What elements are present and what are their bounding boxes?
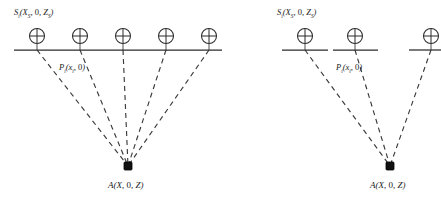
source-label-right: Si(XS, 0, ZS): [277, 7, 316, 19]
surface-point-label-right: Pi(xi, 0): [336, 62, 362, 74]
target-point-label-left: A(X, 0, Z): [108, 180, 144, 190]
diagram-artwork: [0, 0, 441, 206]
figure-canvas: Si(XS, 0, ZS) Pi(xi, 0) A(X, 0, Z) Si(XS…: [0, 0, 441, 206]
surface-point-label-left: Pi(xi, 0): [59, 62, 85, 74]
ray-path: [128, 50, 209, 166]
target-point-label-right: A(X, 0, Z): [370, 180, 406, 190]
source-label-left: Si(XS, 0, ZS): [14, 7, 53, 19]
filled-square-target-icon[interactable]: [386, 162, 394, 170]
ray-path: [80, 50, 128, 166]
ray-path: [123, 50, 128, 166]
ray-path: [390, 50, 431, 166]
filled-square-target-icon[interactable]: [124, 162, 132, 170]
ray-path: [128, 50, 166, 166]
